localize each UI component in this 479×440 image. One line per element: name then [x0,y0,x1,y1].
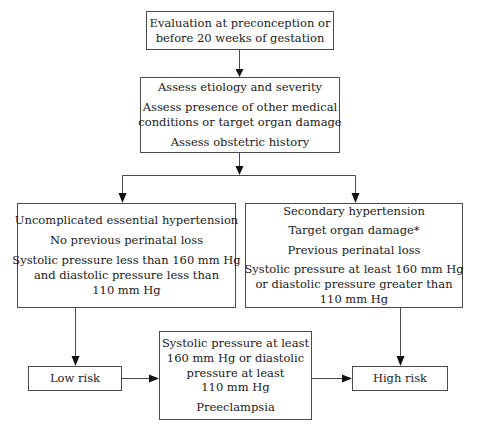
assess-node: Assess etiology and severity Assess pres… [140,77,340,153]
preeclampsia-node: Systolic pressure at least 160 mm Hg or … [159,331,312,420]
edge-uncomplicated-to-low-risk [72,308,80,366]
uncomplicated-line-3: Systolic pressure less than 160 mm Hg [12,253,240,268]
uncomplicated-line-4: and diastolic pressure less than [34,268,219,283]
preeclampsia-line-4: 110 mm Hg [201,380,269,395]
low-risk-node: Low risk [28,366,122,391]
high-risk-node: High risk [352,366,448,391]
uncomplicated-line-1: Uncomplicated essential hypertension [15,213,238,228]
preeclampsia-line-5: Preeclampsia [196,400,275,415]
preeclampsia-line-1: Systolic pressure at least [162,336,309,351]
secondary-hypertension-node: Secondary hypertension Target organ dama… [245,203,463,308]
secondary-line-5: or diastolic pressure greater than [255,277,452,292]
uncomplicated-line-5: 110 mm Hg [92,283,160,298]
assess-line-1: Assess etiology and severity [158,80,322,95]
preeclampsia-line-2: 160 mm Hg or diastolic [167,351,304,366]
edge-branch-to-uncomplicated [119,176,127,204]
high-risk-label: High risk [373,371,427,386]
secondary-line-2: Target organ damage* [288,223,419,238]
edge-secondary-to-high-risk [397,308,405,366]
edge-assess-to-branch [236,153,244,175]
edge-evaluation-to-assess [236,50,244,77]
assess-line-3: conditions or target organ damage [138,115,341,130]
evaluation-node: Evaluation at preconception or before 20… [146,11,334,50]
evaluation-line-2: before 20 weeks of gestation [156,31,325,46]
preeclampsia-line-3: pressure at least [187,366,285,381]
secondary-line-4: Systolic pressure at least 160 mm Hg [244,262,463,277]
secondary-line-6: 110 mm Hg [320,292,388,307]
edge-low-risk-to-preeclampsia [122,375,159,383]
low-risk-label: Low risk [50,371,100,386]
flowchart-canvas: Evaluation at preconception or before 20… [0,0,479,440]
evaluation-line-1: Evaluation at preconception or [150,16,331,31]
assess-line-2: Assess presence of other medical [143,100,338,115]
uncomplicated-line-2: No previous perinatal loss [50,233,203,248]
uncomplicated-essential-hypertension-node: Uncomplicated essential hypertension No … [17,203,236,308]
assess-line-4: Assess obstetric history [171,135,309,150]
secondary-line-1: Secondary hypertension [283,204,425,219]
secondary-line-3: Previous perinatal loss [288,243,421,258]
edge-branch-to-secondary [352,176,360,204]
edge-preeclampsia-to-high-risk [312,375,352,383]
